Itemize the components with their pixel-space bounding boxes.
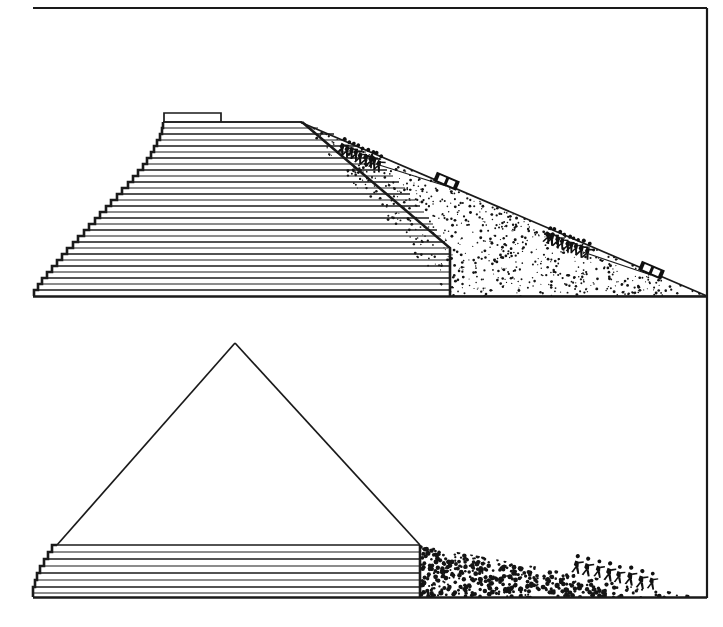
- stipple-dot: [418, 180, 419, 181]
- stipple-dot: [493, 258, 496, 261]
- stipple-dot: [527, 287, 529, 289]
- stipple-dot: [477, 256, 480, 259]
- stipple-dot: [676, 292, 678, 294]
- stipple-dot: [474, 557, 476, 559]
- stipple-dot: [464, 570, 467, 573]
- stipple-dot: [623, 291, 624, 292]
- stipple-dot: [347, 174, 349, 176]
- stipple-dot: [521, 262, 523, 264]
- stipple-dot: [409, 198, 411, 200]
- stipple-dot: [555, 583, 560, 588]
- stipple-dot: [462, 554, 466, 558]
- stipple-dot: [512, 224, 514, 226]
- stipple-dot: [422, 199, 424, 201]
- stipple-dot: [631, 264, 633, 266]
- pyramid-right-face-upper: [302, 122, 450, 296]
- stipple-dot: [399, 219, 401, 221]
- stipple-dot: [518, 289, 521, 292]
- stipple-dot: [415, 198, 417, 200]
- stipple-dot: [453, 249, 456, 252]
- stipple-dot: [405, 200, 407, 202]
- stipple-dot: [453, 590, 457, 594]
- stipple-dot: [637, 285, 639, 287]
- stipple-dot: [403, 169, 406, 172]
- stipple-dot: [476, 276, 478, 278]
- stipple-dot: [503, 591, 506, 594]
- stipple-dot: [443, 247, 444, 248]
- stipple-dot: [472, 259, 475, 262]
- stipple-dot: [388, 184, 389, 185]
- stipple-dot: [386, 206, 388, 208]
- stipple-dot: [575, 282, 576, 283]
- stipple-dot: [435, 264, 436, 265]
- stipple-dot: [468, 205, 471, 208]
- stipple-dot: [562, 592, 564, 594]
- figure-root: [0, 0, 723, 627]
- stipple-dot: [491, 583, 493, 585]
- ramp-stipple-lower: [419, 545, 690, 600]
- stipple-dot: [552, 591, 556, 595]
- stipple-dot: [444, 576, 449, 581]
- stipple-dot: [427, 240, 429, 242]
- stipple-dot: [481, 572, 483, 574]
- stipple-dot: [397, 166, 399, 168]
- stipple-dot: [465, 253, 466, 254]
- stipple-dot: [502, 228, 504, 230]
- stipple-dot: [448, 230, 450, 232]
- stipple-dot: [442, 213, 444, 215]
- stipple-dot: [659, 285, 660, 286]
- stipple-dot: [448, 256, 449, 257]
- stipple-dot: [647, 279, 649, 281]
- stipple-dot: [609, 264, 612, 267]
- stipple-dot: [454, 198, 456, 200]
- stipple-dot: [613, 290, 616, 293]
- stipple-dot: [635, 276, 636, 277]
- stipple-dot: [416, 256, 419, 259]
- stipple-dot: [527, 594, 529, 596]
- stipple-dot: [474, 201, 475, 202]
- stipple-dot: [501, 565, 505, 569]
- stipple-dot: [557, 263, 559, 265]
- stipple-dot: [494, 208, 496, 210]
- stipple-dot: [632, 591, 635, 594]
- stipple-dot: [570, 583, 574, 587]
- stipple-dot: [572, 574, 576, 578]
- stipple-dot: [647, 288, 648, 289]
- worker-silhouette: [571, 553, 585, 574]
- stipple-dot: [406, 231, 408, 233]
- stipple-dot: [538, 235, 539, 236]
- stipple-dot: [477, 287, 478, 288]
- stipple-dot: [437, 594, 439, 596]
- stipple-dot: [463, 260, 465, 262]
- stipple-dot: [608, 271, 611, 274]
- stipple-dot: [417, 237, 419, 239]
- stipple-dot: [492, 569, 495, 572]
- stipple-dot: [390, 199, 392, 201]
- stipple-dot: [542, 275, 544, 277]
- stipple-dot: [473, 288, 474, 289]
- stipple-dot: [617, 281, 618, 282]
- stipple-dot: [646, 276, 647, 277]
- stipple-dot: [559, 580, 564, 585]
- stipple-dot: [514, 238, 517, 241]
- stipple-dot: [419, 201, 420, 202]
- stipple-dot: [592, 588, 596, 592]
- stipple-dot: [505, 235, 507, 237]
- stipple-dot: [421, 240, 423, 242]
- worker-silhouette: [581, 556, 595, 577]
- stipple-dot: [438, 585, 440, 587]
- stipple-dot: [521, 594, 523, 596]
- stipple-dot: [596, 289, 597, 290]
- stipple-dot: [528, 576, 532, 580]
- stipple-dot: [498, 226, 500, 228]
- stipple-dot: [438, 264, 440, 266]
- stipple-dot: [457, 291, 459, 293]
- stipple-dot: [474, 262, 477, 265]
- stipple-dot: [394, 188, 396, 190]
- stipple-dot: [333, 144, 334, 145]
- stipple-dot: [450, 235, 453, 238]
- stipple-dot: [504, 212, 506, 214]
- stipple-dot: [473, 571, 478, 576]
- stipple-dot: [479, 211, 480, 212]
- summit-block-outline: [164, 113, 221, 122]
